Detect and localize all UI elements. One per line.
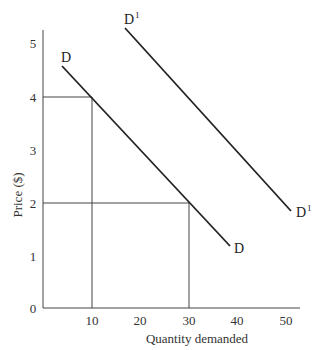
demand-shift-chart: 5 4 3 2 1 0 10 20 30 40 50 Quantity dema… xyxy=(0,0,332,350)
y-tick-labels: 5 4 3 2 1 0 xyxy=(30,36,37,316)
y-axis-title: Price ($) xyxy=(10,172,25,217)
label-d1-start: D 1 xyxy=(124,10,140,27)
label-d-end: D xyxy=(234,241,244,256)
demand-curve-d1 xyxy=(125,28,291,211)
reference-lines xyxy=(43,97,189,308)
y-tick-3: 3 xyxy=(30,143,37,158)
x-tick-50: 50 xyxy=(280,313,293,328)
x-axis-title: Quantity demanded xyxy=(146,331,249,346)
y-tick-1: 1 xyxy=(30,249,37,264)
label-d1-end-main: D xyxy=(296,205,306,220)
x-tick-30: 30 xyxy=(183,313,196,328)
label-d1-end-sup: 1 xyxy=(307,203,312,213)
label-d1-start-main: D xyxy=(124,12,134,27)
y-tick-0: 0 xyxy=(30,301,37,316)
x-tick-10: 10 xyxy=(86,313,99,328)
label-d1-start-sup: 1 xyxy=(135,10,140,20)
demand-curve-d xyxy=(62,66,230,246)
label-d-start: D xyxy=(61,50,71,65)
label-d1-end: D 1 xyxy=(296,203,312,220)
x-tick-20: 20 xyxy=(134,313,147,328)
x-tick-labels: 10 20 30 40 50 xyxy=(86,313,293,328)
y-tick-5: 5 xyxy=(30,36,37,51)
y-tick-4: 4 xyxy=(30,90,37,105)
y-tick-2: 2 xyxy=(30,196,37,211)
x-tick-40: 40 xyxy=(231,313,244,328)
